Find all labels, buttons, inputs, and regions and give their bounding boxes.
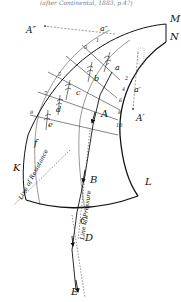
- label-E: E: [70, 286, 79, 297]
- label-line-of-resistance: Line of Resistance: [16, 147, 50, 201]
- label-c: c: [76, 88, 81, 97]
- label-A-prime: A′: [135, 113, 145, 123]
- label-a-double-prime: a″: [100, 24, 108, 33]
- num-right-2: 2: [124, 75, 128, 81]
- arch-pressure-diagram: (after Continental, 1883, p.4?): [0, 0, 181, 302]
- line-A-prime: [133, 52, 138, 110]
- num-left-3: 3: [84, 44, 87, 50]
- label-L: L: [144, 176, 152, 187]
- num-right-4: 4: [121, 86, 125, 92]
- label-A-double-prime: A″: [25, 25, 36, 35]
- label-e: e: [48, 120, 53, 129]
- num-left-5: 5: [58, 71, 61, 77]
- label-d: d: [56, 105, 61, 114]
- construction-rect: [138, 48, 144, 64]
- label-b: b: [94, 74, 99, 83]
- label-K: K: [12, 162, 21, 173]
- num-left-9: 9: [30, 109, 34, 115]
- label-M: M: [169, 13, 181, 24]
- num-left-1: 1: [96, 37, 99, 43]
- label-A: A: [100, 108, 108, 119]
- num-right-8: 8: [118, 109, 121, 115]
- num-right-6: 6: [119, 97, 123, 103]
- arrow-D: [72, 236, 73, 246]
- label-f: f: [33, 138, 39, 148]
- label-a-prime: a′: [134, 85, 141, 94]
- num-right-10: 10: [116, 122, 123, 128]
- label-B: B: [89, 174, 97, 185]
- label-N: N: [169, 31, 180, 42]
- top-caption: (after Continental, 1883, p.4?): [40, 0, 133, 7]
- label-a: a: [115, 63, 120, 72]
